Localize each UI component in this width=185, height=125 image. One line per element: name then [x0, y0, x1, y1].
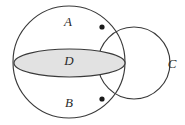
label-a: A [63, 14, 72, 29]
label-b: B [65, 95, 73, 110]
upper-intersection-dot [99, 24, 104, 29]
label-c: C [168, 56, 177, 71]
label-d: D [63, 53, 74, 68]
geometry-figure: A D B C [0, 0, 185, 125]
figure-canvas: A D B C [0, 0, 185, 125]
lower-intersection-dot [99, 96, 104, 101]
